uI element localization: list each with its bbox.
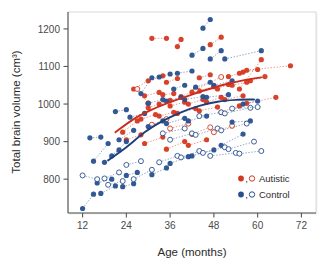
data-point-filled — [168, 161, 173, 166]
x-tick-label: 48 — [208, 220, 220, 231]
data-point-filled — [157, 113, 162, 118]
data-point-filled — [288, 63, 293, 68]
data-point-filled — [120, 130, 125, 135]
legend-entry-control: , Control — [238, 189, 290, 200]
data-point-filled — [171, 91, 176, 96]
data-point-filled — [142, 141, 147, 146]
data-point-open — [106, 182, 111, 187]
data-point-filled — [197, 75, 202, 80]
data-point-filled — [226, 92, 231, 97]
data-point-filled — [197, 108, 202, 113]
data-point-filled — [262, 74, 267, 79]
data-point-filled — [240, 93, 245, 98]
x-tick-label: 24 — [121, 220, 133, 231]
data-point-filled — [149, 36, 154, 41]
data-point-open — [193, 132, 198, 137]
data-point-filled — [124, 173, 129, 178]
data-point-filled — [102, 160, 107, 165]
data-point-filled — [200, 26, 205, 31]
data-point-filled — [215, 104, 220, 109]
data-point-open — [200, 150, 205, 155]
data-point-filled — [116, 137, 121, 142]
y-tick-label: 900 — [43, 136, 60, 147]
legend-label-autistic: Autistic — [259, 173, 290, 184]
data-point-open — [135, 87, 140, 92]
legend-autistic-separator: , — [245, 173, 248, 184]
data-point-filled — [193, 85, 198, 90]
data-point-filled — [120, 184, 125, 189]
data-point-filled — [146, 101, 151, 106]
data-point-filled — [255, 98, 260, 103]
data-point-filled — [135, 170, 140, 175]
data-point-filled — [175, 44, 180, 49]
data-point-filled — [175, 76, 180, 81]
data-point-filled — [240, 132, 245, 137]
data-point-open — [255, 105, 260, 110]
data-point-filled — [98, 135, 103, 140]
data-point-filled — [208, 56, 213, 61]
data-point-open — [168, 126, 173, 131]
data-point-filled — [226, 74, 231, 79]
data-point-open — [197, 114, 202, 119]
x-tick-label: 12 — [77, 220, 89, 231]
data-point-filled — [109, 177, 114, 182]
data-point-open — [208, 125, 213, 130]
data-point-open — [237, 151, 242, 156]
data-point-filled — [186, 118, 191, 123]
data-point-open — [179, 155, 184, 160]
data-point-filled — [160, 92, 165, 97]
data-point-open — [208, 153, 213, 158]
data-point-filled — [149, 75, 154, 80]
data-point-filled — [124, 139, 129, 144]
data-point-open — [131, 177, 136, 182]
legend-control-separator: , — [245, 189, 248, 200]
data-point-filled — [222, 56, 227, 61]
data-point-filled — [204, 95, 209, 100]
data-point-open — [80, 173, 85, 178]
legend-autistic-filled-marker — [238, 176, 244, 182]
data-point-open — [219, 128, 224, 133]
data-point-filled — [113, 109, 118, 114]
data-point-filled — [189, 68, 194, 73]
brain-volume-scatter-figure: 122436486072 800900100011001200 Age (mon… — [0, 0, 326, 264]
data-point-filled — [87, 135, 92, 140]
x-tick-label: 72 — [296, 220, 308, 231]
legend-label-control: Control — [259, 189, 290, 200]
data-point-filled — [219, 48, 224, 53]
data-point-filled — [164, 165, 169, 170]
data-point-filled — [164, 121, 169, 126]
data-point-open — [182, 126, 187, 131]
data-point-filled — [259, 57, 264, 62]
y-tick-label: 1200 — [38, 24, 61, 35]
data-point-filled — [219, 35, 224, 40]
data-point-open — [102, 176, 107, 181]
data-point-filled — [237, 86, 242, 91]
data-point-filled — [273, 95, 278, 100]
data-point-filled — [204, 137, 209, 142]
data-point-open — [244, 121, 249, 126]
data-point-filled — [208, 17, 213, 22]
data-point-filled — [168, 71, 173, 76]
data-point-filled — [106, 141, 111, 146]
data-point-filled — [208, 42, 213, 47]
data-point-filled — [91, 192, 96, 197]
data-point-open — [219, 75, 224, 80]
data-point-filled — [124, 107, 129, 112]
data-point-filled — [164, 147, 169, 152]
y-tick-label: 800 — [43, 174, 60, 185]
data-point-filled — [230, 119, 235, 124]
data-point-filled — [171, 86, 176, 91]
data-point-open — [222, 111, 227, 116]
data-point-open — [168, 137, 173, 142]
data-point-filled — [186, 101, 191, 106]
data-point-open — [160, 131, 165, 136]
data-point-filled — [149, 172, 154, 177]
data-point-open — [149, 167, 154, 172]
data-point-open — [230, 106, 235, 111]
data-point-filled — [157, 74, 162, 79]
data-point-filled — [186, 143, 191, 148]
data-point-filled — [168, 103, 173, 108]
y-tick-label: 1000 — [38, 99, 61, 110]
x-axis-title: Age (months) — [157, 246, 226, 258]
chart-canvas: 122436486072 800900100011001200 Age (mon… — [0, 0, 326, 264]
